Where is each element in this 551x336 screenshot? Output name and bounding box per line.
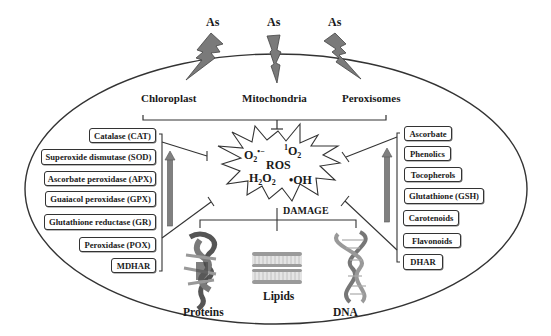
dna-helix-icon bbox=[336, 232, 366, 302]
ros-hydroxyl: •OH bbox=[289, 173, 312, 188]
non-enzymatic-item-dhar: DHAR bbox=[403, 254, 443, 270]
non-enzymatic-item-ascorbate: Ascorbate bbox=[404, 126, 452, 141]
damage-target-lipids: Lipids bbox=[263, 290, 294, 302]
non-enzymatic-item-flavonoids: Flavonoids bbox=[403, 233, 461, 248]
damage-target-dna: DNA bbox=[333, 306, 358, 318]
stressor-label: As bbox=[267, 15, 280, 30]
enzymatic-item-gpx: Guaiacol peroxidase (GPX) bbox=[45, 191, 156, 207]
non-enzymatic-bracket bbox=[341, 133, 400, 262]
enzymatic-item-pox: Peroxidase (POX) bbox=[79, 237, 156, 252]
lipid-bilayer-icon bbox=[252, 252, 302, 284]
upregulation-arrow-icon bbox=[165, 151, 175, 226]
enzymatic-item-gr: Glutathione reductase (GR) bbox=[44, 214, 156, 230]
enzymatic-item-mdhar: MDHAR bbox=[111, 258, 156, 273]
organelle-label-chloroplast: Chloroplast bbox=[141, 92, 196, 104]
arsenic-bolt-icon bbox=[324, 33, 361, 79]
enzymatic-item-sod: Superoxide dismutase (SOD) bbox=[41, 149, 156, 165]
organelle-bracket bbox=[143, 115, 386, 129]
ros-superoxide: O2•− bbox=[244, 147, 265, 164]
damage-target-proteins: Proteins bbox=[183, 306, 224, 318]
non-enzymatic-item-carotenoids: Carotenoids bbox=[403, 210, 459, 226]
stressor-label: As bbox=[328, 15, 341, 30]
ros-hydrogen-peroxide: H2O2 bbox=[249, 171, 276, 187]
non-enzymatic-item-phenolics: Phenolics bbox=[404, 146, 451, 161]
upregulation-arrow-icon bbox=[382, 148, 392, 222]
stressor-label: As bbox=[206, 15, 219, 30]
enzymatic-item-cat: Catalase (CAT) bbox=[89, 128, 156, 143]
damage-bracket bbox=[200, 208, 356, 231]
protein-structure-icon bbox=[184, 234, 216, 309]
arsenic-bolt-icon bbox=[186, 33, 223, 80]
non-enzymatic-item-tocopherols: Tocopherols bbox=[404, 167, 462, 182]
enzymatic-item-apx: Ascorbate peroxidase (APX) bbox=[44, 171, 156, 186]
organelle-label-peroxisomes: Peroxisomes bbox=[342, 92, 400, 104]
damage-label: DAMAGE bbox=[283, 205, 329, 216]
non-enzymatic-item-glutathione: Glutathione (GSH) bbox=[404, 188, 484, 204]
arsenic-bolt-icon bbox=[267, 35, 281, 83]
organelle-label-mitochondria: Mitochondria bbox=[242, 92, 307, 104]
